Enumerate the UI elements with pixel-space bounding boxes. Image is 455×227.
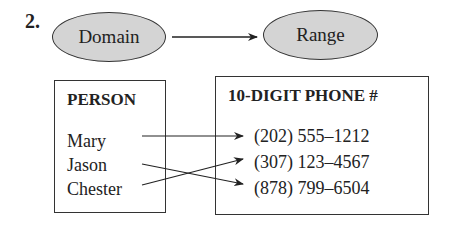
mapping-arrows	[0, 0, 455, 227]
